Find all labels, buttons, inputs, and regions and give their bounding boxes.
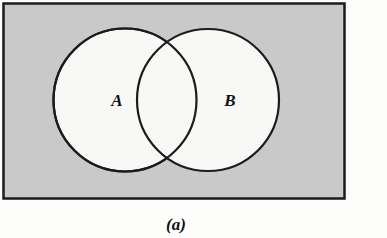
venn-diagram-svg: A B (a) [0,0,387,238]
set-b-label: B [223,91,235,110]
venn-diagram-figure: A B (a) [0,0,387,238]
figure-caption: (a) [166,215,186,234]
set-b-circle [137,29,279,171]
set-a-label: A [110,91,122,110]
